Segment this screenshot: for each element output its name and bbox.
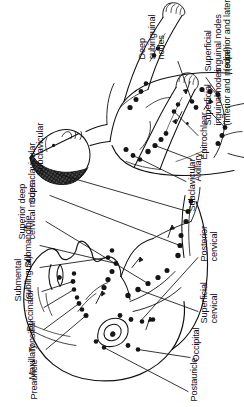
label-deep-subinguinal: Deep subinguinal nodes xyxy=(138,14,167,59)
illustration-canvas: Preauricle Maxillary Tonsillar Buccinato… xyxy=(0,0,244,407)
label-subclavicular-neck: Subclavicular xyxy=(36,122,46,175)
label-occipital: Occipital xyxy=(192,327,202,361)
label-superficial-inguinal-superior-lateral: Superficial inguinal nodes (superior and… xyxy=(204,0,233,71)
label-posterior-cervical: Posterior cervical xyxy=(200,226,219,261)
anatomy-plate: Preauricle Maxillary Tonsillar Buccinato… xyxy=(0,0,244,407)
label-postauricle: Postauricle xyxy=(190,357,200,401)
label-superficial-cervical: Superficial cervical xyxy=(200,282,219,323)
